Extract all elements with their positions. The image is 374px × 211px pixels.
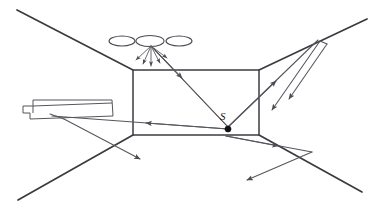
ceiling-light-left bbox=[109, 36, 135, 46]
ray-source-to-upper-right-arrow bbox=[228, 81, 276, 127]
ray-source-to-left-arrow bbox=[146, 123, 228, 129]
furniture-bed bbox=[23, 100, 113, 119]
persp-line-lower-left bbox=[18, 135, 133, 200]
emission-ray-2 bbox=[143, 46, 151, 64]
ceiling-lights-group bbox=[109, 36, 192, 47]
ray-upper-right-edge bbox=[320, 41, 327, 44]
source-label: S bbox=[220, 110, 226, 122]
light-emission-fan bbox=[136, 46, 167, 66]
back-wall bbox=[133, 70, 259, 135]
ceiling-light-right bbox=[166, 36, 192, 46]
back-wall-rectangle bbox=[133, 70, 259, 135]
ceiling-light-center bbox=[136, 36, 164, 47]
ray-lower-right-reflect bbox=[247, 152, 312, 180]
source-dot bbox=[225, 126, 231, 132]
emission-ray-1 bbox=[136, 46, 151, 60]
light-ray-diagram: S bbox=[0, 0, 374, 211]
persp-line-lower-right bbox=[259, 135, 362, 192]
ray-source-to-ceiling bbox=[152, 47, 228, 127]
ray-reflect-upper-right-a bbox=[272, 41, 320, 110]
scene-canvas: S bbox=[0, 0, 374, 211]
bed-outline bbox=[23, 100, 113, 119]
